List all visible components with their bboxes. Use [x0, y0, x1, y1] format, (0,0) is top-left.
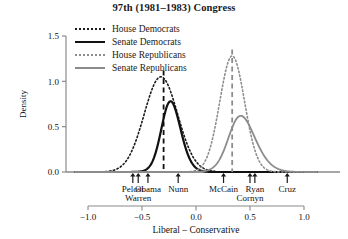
annotation-label: Cornyn	[237, 193, 265, 203]
y-axis-tick-label: 0.5	[48, 122, 60, 132]
y-axis-tick-label: 1.0	[48, 77, 60, 87]
annotation-label: Obama	[135, 184, 161, 194]
annotation-arrow-head	[221, 173, 226, 177]
x-axis-title: Liberal – Conservative	[152, 225, 239, 235]
x-axis-tick-label: −0.5	[134, 212, 151, 222]
x-axis-tick-label: −1.0	[80, 212, 97, 222]
annotation-label: Ryan	[246, 184, 265, 194]
density-curve	[75, 77, 316, 172]
plot-area: 0.00.51.01.5Density−1.0−0.50.00.51.0Libe…	[0, 0, 348, 239]
annotation-arrow-head	[176, 173, 181, 177]
density-curve	[75, 56, 316, 172]
annotation-arrow-head	[247, 173, 252, 177]
y-axis-tick-label: 1.5	[48, 31, 60, 41]
annotation-label: Warren	[125, 193, 152, 203]
politician-annotations-group: PelosiWarrenObamaNunnMcCainCornynRyanCru…	[122, 173, 296, 203]
density-curves-group	[75, 56, 316, 172]
y-axis-tick-label: 0.0	[48, 167, 60, 177]
annotation-label: Nunn	[168, 184, 188, 194]
x-axis-tick-label: 0.0	[190, 212, 202, 222]
density-curve	[75, 116, 316, 172]
annotation-arrow-head	[252, 173, 257, 177]
y-axis-title: Density	[18, 90, 28, 118]
annotation-arrow-head	[145, 173, 150, 177]
x-axis-tick-label: 0.5	[244, 212, 256, 222]
axes-group: 0.00.51.01.5Density−1.0−0.50.00.51.0Libe…	[18, 31, 340, 235]
x-axis-tick-label: 1.0	[298, 212, 310, 222]
annotation-arrow-head	[285, 173, 290, 177]
annotation-label: Cruz	[279, 184, 297, 194]
annotation-arrow-head	[136, 173, 141, 177]
annotation-arrow-head	[130, 173, 135, 177]
density-chart-figure: 97th (1981–1983) Congress House Democrat…	[0, 0, 348, 239]
annotation-label: McCain	[209, 184, 238, 194]
